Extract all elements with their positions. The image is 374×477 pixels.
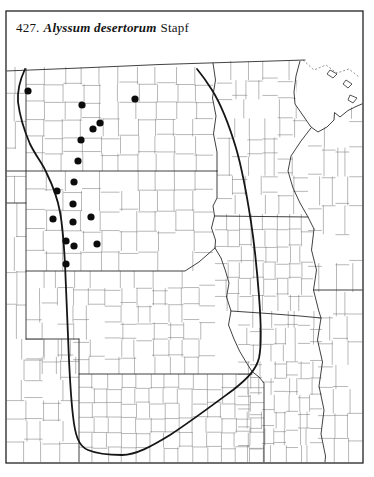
great-plains-region-boundary (18, 69, 261, 455)
species-number: 427. (16, 20, 40, 35)
occurrence-dot (62, 260, 69, 267)
southdakota-nebraska-border (26, 248, 215, 271)
canada-border (6, 60, 305, 71)
occurrence-dot (24, 87, 31, 94)
mississippi-river-border (312, 229, 326, 462)
red-river-border (213, 63, 218, 171)
occurrence-dot (74, 157, 81, 164)
iowa-missouri-border (231, 311, 321, 318)
map-title: 427.Alyssum desertorumStapf (16, 20, 189, 36)
occurrence-dot (53, 187, 60, 194)
occurrence-dot (70, 178, 77, 185)
distribution-map (0, 0, 374, 477)
occurrence-dot (70, 242, 77, 249)
minnesota-southdakota-border (212, 171, 218, 248)
occurrence-dot (62, 237, 69, 244)
atlas-map-page: 427.Alyssum desertorumStapf (0, 0, 374, 477)
occurrence-dot (77, 136, 84, 143)
occurrence-dot (93, 240, 100, 247)
occurrence-dot (69, 218, 76, 225)
occurrence-dot (78, 101, 85, 108)
missouri-river-border (215, 248, 252, 372)
species-author: Stapf (157, 20, 189, 35)
occurrence-dot (96, 119, 103, 126)
species-name: Alyssum desertorum (40, 20, 157, 35)
occurrence-dot (131, 95, 138, 102)
occurrence-dot (89, 125, 96, 132)
occurrence-dot (87, 213, 94, 220)
minnesota-iowa-border (215, 216, 309, 217)
occurrence-dot (49, 215, 56, 222)
minnesota-wisconsin-border (288, 128, 314, 229)
lake-superior (294, 60, 363, 132)
occurrence-dot (69, 200, 76, 207)
